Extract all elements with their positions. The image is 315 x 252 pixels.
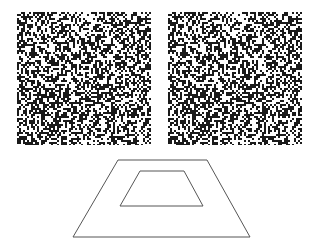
inner-trapezoid — [120, 171, 203, 206]
outer-trapezoid — [73, 160, 250, 237]
trapezoid-depth-diagram — [0, 0, 315, 252]
